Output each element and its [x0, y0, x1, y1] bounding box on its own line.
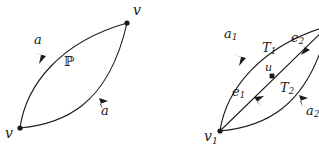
label-edge-e1: e1: [232, 85, 245, 100]
vertex-u-dot: [270, 74, 275, 79]
arc-upper-arrowhead: [34, 53, 46, 64]
label-vertex-v-top: v: [133, 3, 141, 17]
label-vertex-u: u: [265, 62, 272, 73]
arc-a1-arrowhead: [234, 55, 246, 66]
figure-canvas: v v a a ℙ a1 e2 T1 u e1 T2: [0, 0, 319, 146]
label-vertex-v1: v1: [204, 129, 218, 145]
label-edge-e2: e2: [291, 31, 304, 46]
panel-bigon-single-edge: v v a a ℙ: [0, 0, 160, 146]
label-face-T1: T1: [262, 41, 276, 56]
right-diagram-svg: [160, 0, 319, 146]
vertex-v-top-dot: [124, 20, 129, 25]
label-edge-a2: a2: [306, 104, 319, 119]
vertex-v1-dot: [217, 128, 222, 133]
label-edge-a1: a1: [224, 27, 237, 42]
label-edge-a-lower: a: [101, 104, 109, 117]
vertex-v-bottom-dot: [17, 125, 22, 130]
left-diagram-svg: [0, 0, 160, 146]
panel-bigon-subdivided: a1 e2 T1 u e1 T2 a2 v1: [160, 0, 319, 146]
label-edge-a-upper: a: [34, 33, 42, 46]
label-region-P: ℙ: [64, 54, 75, 68]
label-face-T2: T2: [280, 81, 294, 96]
label-vertex-v-bottom: v: [5, 126, 13, 140]
edge-e1-arrowhead: [254, 96, 264, 107]
